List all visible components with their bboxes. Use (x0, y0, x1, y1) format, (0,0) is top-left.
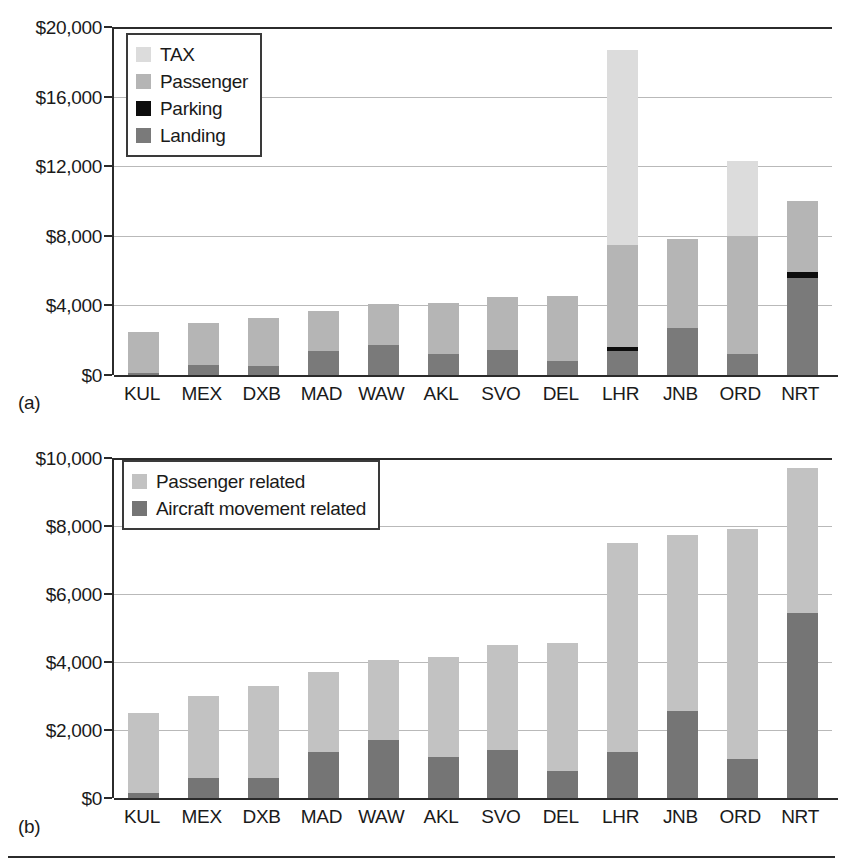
x-axis-tick-label-dxb: DXB (232, 383, 292, 405)
bar-mex[interactable] (188, 696, 219, 798)
x-axis-tick-label-del: DEL (531, 383, 591, 405)
bar-lhr[interactable] (607, 50, 638, 375)
bar-segment-passenger-related (547, 643, 578, 771)
bar-del[interactable] (547, 296, 578, 375)
legend-item-passenger[interactable]: Passenger (136, 68, 248, 95)
bar-segment-aircraft-movement-related (787, 613, 818, 798)
bar-segment-passenger-related (368, 660, 399, 740)
bar-mad[interactable] (308, 311, 339, 375)
y-axis-tick (104, 661, 112, 663)
y-axis-tick-label: $0 (81, 366, 102, 385)
y-axis-tick-label: $12,000 (35, 157, 102, 176)
legend-label: Passenger related (156, 472, 305, 491)
bar-lhr[interactable] (607, 543, 638, 798)
y-axis-tick (104, 729, 112, 731)
x-axis-tick-label-dxb: DXB (232, 806, 292, 828)
x-axis-tick-label-mad: MAD (292, 383, 352, 405)
x-axis-tick-label-kul: KUL (112, 806, 172, 828)
bar-ord[interactable] (727, 161, 758, 375)
bar-segment-passenger-related (607, 543, 638, 752)
bar-segment-landing (368, 345, 399, 375)
bar-ord[interactable] (727, 529, 758, 798)
y-axis-tick (104, 304, 112, 306)
bar-segment-landing (547, 361, 578, 375)
bar-jnb[interactable] (667, 239, 698, 375)
y-axis-tick (104, 374, 112, 376)
y-axis-labels-a: $0$4,000$8,000$12,000$16,000$20,000 (0, 0, 102, 405)
bar-segment-aircraft-movement-related (188, 778, 219, 798)
bar-segment-passenger-related (308, 672, 339, 752)
legend-item-aircraft-movement-related[interactable]: Aircraft movement related (132, 495, 366, 522)
bar-akl[interactable] (428, 657, 459, 798)
bar-del[interactable] (547, 643, 578, 798)
y-axis-tick-label: $8,000 (46, 517, 102, 536)
x-axis-tick-label-nrt: NRT (770, 806, 830, 828)
legend-swatch-icon (136, 101, 151, 116)
bar-segment-tax (727, 161, 758, 236)
legend-item-landing[interactable]: Landing (136, 122, 248, 149)
bar-mex[interactable] (188, 323, 219, 375)
x-axis-labels-b: KULMEXDXBMADWAWAKLSVODELLHRJNBORDNRT (0, 806, 843, 832)
legend-item-tax[interactable]: TAX (136, 41, 248, 68)
gridline (114, 166, 832, 167)
y-axis-tick (104, 235, 112, 237)
y-axis-tick (104, 525, 112, 527)
bar-nrt[interactable] (787, 201, 818, 375)
legend-swatch-icon (132, 501, 147, 516)
y-axis-tick-label: $4,000 (46, 653, 102, 672)
bar-akl[interactable] (428, 303, 459, 375)
bar-segment-passenger (667, 239, 698, 328)
chart-panel-b: $0$2,000$4,000$6,000$8,000$10,000 KULMEX… (0, 432, 843, 864)
x-axis-tick-label-kul: KUL (112, 383, 172, 405)
bar-segment-passenger-related (428, 657, 459, 757)
bar-segment-landing (248, 366, 279, 375)
bar-segment-aircraft-movement-related (368, 740, 399, 798)
legend-item-parking[interactable]: Parking (136, 95, 248, 122)
bar-segment-passenger-related (667, 535, 698, 712)
bar-segment-passenger-related (787, 468, 818, 613)
bar-kul[interactable] (128, 713, 159, 798)
bar-segment-tax (607, 50, 638, 245)
bar-svo[interactable] (487, 297, 518, 375)
figure-root: $0$4,000$8,000$12,000$16,000$20,000 KULM… (0, 0, 843, 864)
x-axis-tick-label-lhr: LHR (591, 383, 651, 405)
bar-segment-aircraft-movement-related (128, 793, 159, 798)
legend-label: TAX (160, 45, 195, 64)
bar-segment-landing (128, 373, 159, 375)
legend-swatch-icon (136, 47, 151, 62)
x-axis-tick-label-jnb: JNB (651, 806, 711, 828)
bar-dxb[interactable] (248, 686, 279, 798)
bar-dxb[interactable] (248, 318, 279, 375)
y-axis-tick (104, 165, 112, 167)
x-axis-tick-label-akl: AKL (411, 383, 471, 405)
bar-jnb[interactable] (667, 535, 698, 798)
legend-item-passenger-related[interactable]: Passenger related (132, 468, 366, 495)
bar-kul[interactable] (128, 332, 159, 375)
bar-segment-passenger (487, 297, 518, 350)
gridline (114, 305, 832, 306)
gridline (114, 236, 832, 237)
bar-segment-passenger-related (248, 686, 279, 778)
x-axis-tick-label-mex: MEX (172, 806, 232, 828)
bar-segment-passenger-related (487, 645, 518, 750)
legend-a: TAXPassengerParkingLanding (126, 33, 262, 157)
bar-waw[interactable] (368, 304, 399, 375)
bar-segment-passenger-related (128, 713, 159, 793)
x-axis-tick-label-akl: AKL (411, 806, 471, 828)
bar-segment-passenger (128, 332, 159, 374)
bar-mad[interactable] (308, 672, 339, 798)
y-axis-tick (104, 797, 112, 799)
y-axis-tick-label: $4,000 (46, 296, 102, 315)
bar-segment-aircraft-movement-related (607, 752, 638, 798)
y-axis-tick (104, 593, 112, 595)
bar-nrt[interactable] (787, 468, 818, 798)
gridline (114, 594, 832, 595)
x-axis-tick-label-nrt: NRT (770, 383, 830, 405)
bar-segment-landing (428, 354, 459, 375)
x-axis-tick-label-ord: ORD (710, 806, 770, 828)
bar-segment-landing (607, 351, 638, 375)
bar-segment-landing (308, 351, 339, 375)
bar-waw[interactable] (368, 660, 399, 798)
bar-svo[interactable] (487, 645, 518, 798)
bar-segment-passenger-related (727, 529, 758, 759)
